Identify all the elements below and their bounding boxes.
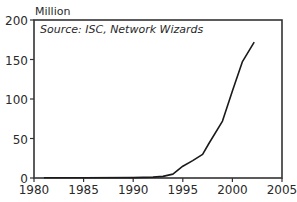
x-tick-label: 1980 bbox=[19, 183, 50, 197]
y-tick-label: 200 bbox=[5, 14, 28, 28]
x-tick-label: 1985 bbox=[68, 183, 99, 197]
plot-frame bbox=[34, 20, 282, 178]
line-chart: 050100150200198019851990199520002005Mill… bbox=[0, 0, 297, 202]
y-tick-label: 150 bbox=[5, 54, 28, 68]
y-tick-label: 50 bbox=[13, 133, 28, 147]
y-unit-label: Million bbox=[35, 5, 70, 18]
series-line bbox=[44, 42, 254, 178]
x-tick-label: 2005 bbox=[267, 183, 297, 197]
source-annotation: Source: ISC, Network Wizards bbox=[40, 23, 204, 36]
x-tick-label: 1990 bbox=[118, 183, 149, 197]
y-tick-label: 100 bbox=[5, 93, 28, 107]
x-tick-label: 2000 bbox=[217, 183, 248, 197]
x-tick-label: 1995 bbox=[168, 183, 199, 197]
